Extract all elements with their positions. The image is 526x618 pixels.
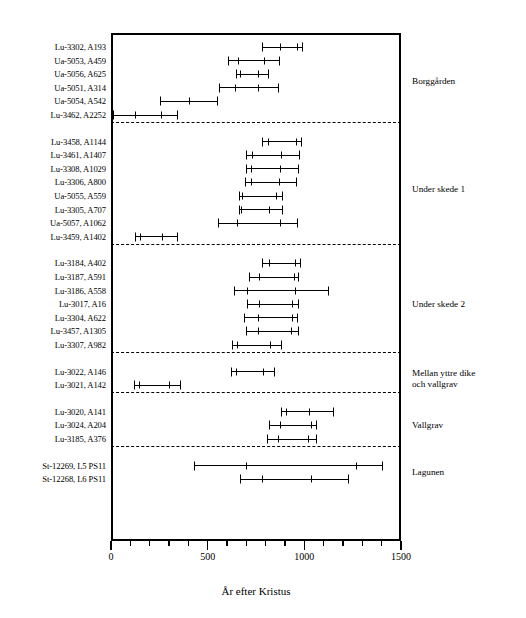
y-axis-label: Ua-5053, A459 bbox=[54, 56, 106, 65]
error-bar-interval-tick bbox=[139, 382, 140, 389]
error-bar-cap-low bbox=[160, 97, 161, 106]
error-bar-interval-tick bbox=[251, 165, 252, 172]
error-bar-interval-tick bbox=[308, 436, 309, 443]
error-bar-interval-tick bbox=[279, 179, 280, 186]
y-axis-label: Ua-5056, A625 bbox=[54, 70, 106, 79]
error-bar-interval-tick bbox=[269, 206, 270, 213]
error-bar bbox=[246, 151, 300, 160]
error-bar-cap-low bbox=[232, 341, 233, 350]
y-axis-label: Lu-3024, A204 bbox=[55, 421, 106, 430]
y-axis-label: Lu-3186, A558 bbox=[55, 286, 106, 295]
y-axis-label: Lu-3187, A591 bbox=[55, 273, 106, 282]
y-axis-label: Lu-3308, A1029 bbox=[51, 164, 106, 173]
error-bar-line bbox=[194, 465, 383, 466]
error-bar-line bbox=[269, 425, 317, 426]
error-bar-cap-high bbox=[333, 407, 334, 416]
error-bar-interval-tick bbox=[297, 44, 298, 51]
y-axis-label: St-12268, L6 PS11 bbox=[42, 475, 106, 484]
y-axis-label: Lu-3022, A146 bbox=[55, 367, 106, 376]
y-axis-label: St-12269, L5 PS11 bbox=[42, 461, 106, 470]
x-axis-minor-tick bbox=[188, 541, 189, 546]
error-bar bbox=[135, 232, 178, 241]
error-bar-interval-tick bbox=[356, 462, 357, 469]
error-bar-line bbox=[228, 60, 280, 61]
group-label-column: BorggårdenUnder skede 1Under skede 2Mell… bbox=[406, 33, 526, 541]
error-bar bbox=[246, 327, 298, 336]
error-bar-cap-high bbox=[316, 435, 317, 444]
error-bar-interval-tick bbox=[252, 152, 253, 159]
x-axis-tick-label: 1500 bbox=[391, 551, 411, 562]
error-bar-cap-low bbox=[262, 259, 263, 268]
error-bar bbox=[234, 286, 330, 295]
error-bar-cap-low bbox=[239, 192, 240, 201]
y-axis-label: Lu-3458, A1144 bbox=[51, 137, 106, 146]
group-label-line: och vallgrav bbox=[412, 378, 475, 389]
group-separator bbox=[111, 122, 401, 123]
error-bar-interval-tick bbox=[237, 220, 238, 227]
error-bar-interval-tick bbox=[295, 287, 296, 294]
error-bar bbox=[262, 43, 304, 52]
error-bar bbox=[219, 83, 279, 92]
error-bar-cap-low bbox=[269, 421, 270, 430]
group-label-line: Mellan yttre dike bbox=[412, 368, 475, 379]
error-bar bbox=[232, 341, 282, 350]
error-bar-cap-low bbox=[244, 313, 245, 322]
error-bar-line bbox=[134, 385, 180, 386]
group-separator bbox=[111, 244, 401, 245]
error-bar-interval-tick bbox=[270, 342, 271, 349]
error-bar bbox=[249, 273, 299, 282]
y-axis-label: Ua-5057, A1062 bbox=[50, 219, 106, 228]
error-bar-cap-low bbox=[194, 461, 195, 470]
error-bar-interval-tick bbox=[235, 84, 236, 91]
radiocarbon-errorbar-chart: Lu-3302, A193Ua-5053, A459Ua-5056, A625U… bbox=[0, 0, 526, 618]
error-bar-cap-high bbox=[328, 286, 329, 295]
error-bar bbox=[160, 97, 218, 106]
x-axis-minor-tick bbox=[323, 541, 324, 546]
x-axis-minor-tick bbox=[168, 541, 169, 546]
error-bar-interval-tick bbox=[292, 314, 293, 321]
error-bar bbox=[262, 137, 303, 146]
group-label: Under skede 2 bbox=[412, 299, 465, 310]
x-axis-minor-tick bbox=[342, 541, 343, 546]
error-bar-cap-low bbox=[231, 367, 232, 376]
error-bar-cap-low bbox=[113, 111, 114, 120]
error-bar bbox=[194, 461, 383, 470]
error-bar-interval-tick bbox=[238, 57, 239, 64]
error-bar-cap-low bbox=[240, 475, 241, 484]
error-bar-cap-high bbox=[298, 164, 299, 173]
x-axis-minor-tick bbox=[130, 541, 131, 546]
y-axis-label: Lu-3462, A2252 bbox=[51, 111, 106, 120]
error-bar bbox=[113, 111, 178, 120]
y-axis-label: Lu-3306, A800 bbox=[55, 178, 106, 187]
error-bar-cap-low bbox=[246, 151, 247, 160]
error-bar-cap-high bbox=[298, 327, 299, 336]
error-bar-line bbox=[240, 479, 349, 480]
error-bar-interval-tick bbox=[259, 301, 260, 308]
error-bar-cap-high bbox=[302, 43, 303, 52]
error-bar-line bbox=[249, 277, 299, 278]
error-bar-interval-tick bbox=[169, 382, 170, 389]
error-bar-cap-low bbox=[249, 273, 250, 282]
error-bar-interval-tick bbox=[291, 328, 292, 335]
error-bar-interval-tick bbox=[278, 436, 279, 443]
y-axis-label: Ua-5054, A542 bbox=[54, 97, 106, 106]
x-axis-minor-tick bbox=[381, 541, 382, 546]
error-bar-interval-tick bbox=[258, 314, 259, 321]
error-bar-cap-high bbox=[296, 178, 297, 187]
error-bar bbox=[228, 56, 280, 65]
error-bar-line bbox=[218, 223, 297, 224]
y-axis-label: Lu-3021, A142 bbox=[55, 381, 106, 390]
error-bar-interval-tick bbox=[294, 274, 295, 281]
x-axis-major-tick bbox=[110, 541, 111, 550]
error-bar-interval-tick bbox=[258, 71, 259, 78]
error-bar-interval-tick bbox=[276, 193, 277, 200]
error-bar-cap-low bbox=[236, 70, 237, 79]
error-bar-cap-high bbox=[274, 367, 275, 376]
error-bar-cap-high bbox=[316, 421, 317, 430]
error-bar-cap-high bbox=[298, 273, 299, 282]
error-bar-cap-high bbox=[217, 97, 218, 106]
y-axis-label: Lu-3305, A707 bbox=[55, 205, 106, 214]
y-axis-label: Ua-5051, A314 bbox=[54, 83, 106, 92]
group-label: Mellan yttre dikeoch vallgrav bbox=[412, 368, 475, 389]
group-label: Vallgrav bbox=[412, 420, 443, 431]
